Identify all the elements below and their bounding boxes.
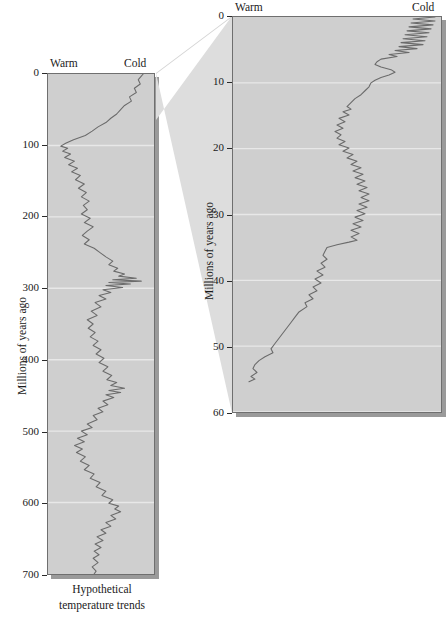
right-panel-plot[interactable] <box>232 16 442 413</box>
axis-tick-label: 50 <box>188 341 224 352</box>
axis-tick-label: 0 <box>3 67 39 78</box>
axis-tick-mark <box>227 16 232 17</box>
left-panel-plot[interactable] <box>47 73 155 575</box>
axis-tick-mark <box>42 575 47 576</box>
right-warm-label: Warm <box>235 2 263 13</box>
axis-tick-mark <box>42 145 47 146</box>
axis-tick-label: 300 <box>3 282 39 293</box>
right-cold-label: Cold <box>412 2 434 13</box>
axis-tick-mark <box>227 413 232 414</box>
axis-tick-mark <box>42 432 47 433</box>
axis-tick-label: 0 <box>188 10 224 21</box>
axis-tick-mark <box>227 148 232 149</box>
axis-tick-label: 100 <box>3 139 39 150</box>
right-axis-title: Millions of years ago <box>203 202 215 300</box>
axis-tick-label: 10 <box>188 76 224 87</box>
figure-root: Warm Cold 0100200300400500600700 Million… <box>0 0 447 620</box>
left-axis-title: Millions of years ago <box>16 297 28 395</box>
axis-tick-mark <box>227 281 232 282</box>
axis-tick-mark <box>227 347 232 348</box>
left-panel-caption-line2: temperature trends <box>37 598 167 613</box>
axis-tick-mark <box>42 503 47 504</box>
right-panel-curve-svg <box>233 17 441 412</box>
temperature-curve <box>249 17 435 382</box>
axis-tick-label: 20 <box>188 142 224 153</box>
axis-tick-mark <box>42 360 47 361</box>
axis-tick-label: 200 <box>3 210 39 221</box>
axis-tick-label: 500 <box>3 426 39 437</box>
axis-tick-mark <box>42 73 47 74</box>
left-warm-label: Warm <box>50 58 78 69</box>
left-panel-curve-svg <box>48 74 154 574</box>
axis-tick-mark <box>42 216 47 217</box>
axis-tick-label: 700 <box>3 569 39 580</box>
left-cold-label: Cold <box>124 58 146 69</box>
left-panel-caption-line1: Hypothetical <box>37 582 167 597</box>
axis-tick-mark <box>227 215 232 216</box>
axis-tick-label: 60 <box>188 407 224 418</box>
temperature-curve <box>61 74 143 574</box>
axis-tick-mark <box>227 82 232 83</box>
axis-tick-label: 600 <box>3 497 39 508</box>
axis-tick-mark <box>42 288 47 289</box>
